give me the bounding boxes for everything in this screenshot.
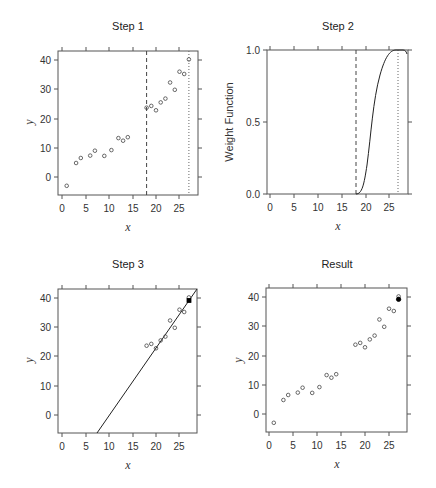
x-axis-title: x xyxy=(333,457,340,471)
x-axis-title: x xyxy=(334,219,341,233)
x-axis: 0 5 10 15 20 25 x xyxy=(267,46,395,233)
y-tick-label: 10 xyxy=(40,381,52,392)
plot-frame xyxy=(267,50,408,194)
weight-function-curve xyxy=(356,50,407,194)
x-axis: 0 5 10 15 20 25 x xyxy=(266,284,395,471)
x-tick-label: 0 xyxy=(59,203,65,214)
y-tick-label: 1.0 xyxy=(246,45,260,56)
y-axis: 0.0 0.5 1.0 Weight Function xyxy=(223,45,412,200)
panel-title: Step 2 xyxy=(322,20,354,32)
y-axis: 0 10 20 30 40 y xyxy=(22,55,202,183)
y-axis-title: Weight Function xyxy=(223,82,235,161)
y-tick-label: 20 xyxy=(40,351,52,362)
x-axis: 0 5 10 15 20 25 x xyxy=(59,47,185,234)
x-tick-label: 5 xyxy=(291,202,297,213)
y-tick-label: 40 xyxy=(248,292,260,303)
x-tick-label: 10 xyxy=(103,441,115,452)
x-tick-label: 20 xyxy=(359,440,371,451)
plot-frame xyxy=(266,288,407,432)
x-tick-label: 20 xyxy=(150,441,162,452)
x-tick-label: 15 xyxy=(336,202,348,213)
y-tick-label: 0.0 xyxy=(246,189,260,200)
y-tick-label: 40 xyxy=(40,55,52,66)
x-tick-label: 25 xyxy=(383,440,395,451)
x-tick-label: 25 xyxy=(383,202,395,213)
x-tick-label: 0 xyxy=(266,440,272,451)
panel-title: Step 1 xyxy=(112,20,144,32)
x-tick-label: 15 xyxy=(127,203,139,214)
x-tick-label: 10 xyxy=(103,203,115,214)
y-axis-title: y xyxy=(22,119,36,126)
x-tick-label: 5 xyxy=(290,440,296,451)
y-tick-label: 30 xyxy=(40,322,52,333)
y-tick-label: 0 xyxy=(45,410,51,421)
panel-step2: Step 2 0 5 10 15 20 25 x 0.0 0.5 1.0 Wei… xyxy=(223,20,412,233)
data-points xyxy=(145,296,191,351)
highlighted-point xyxy=(187,299,191,303)
panel-step3: Step 3 0 5 10 15 20 25 x 0 10 20 xyxy=(22,258,201,472)
x-tick-label: 15 xyxy=(335,440,347,451)
panel-step1: Step 1 0 5 10 15 20 25 x 0 10 2 xyxy=(22,20,202,234)
x-tick-label: 0 xyxy=(267,202,273,213)
x-axis-title: x xyxy=(124,458,131,472)
plot-frame xyxy=(58,51,198,195)
x-tick-label: 5 xyxy=(83,203,89,214)
x-tick-label: 10 xyxy=(312,202,324,213)
figure: Step 1 0 5 10 15 20 25 x 0 10 2 xyxy=(0,0,436,488)
y-tick-label: 0 xyxy=(45,172,51,183)
y-axis: 0 10 20 30 40 y xyxy=(22,293,201,421)
highlighted-point xyxy=(396,297,400,301)
x-tick-label: 25 xyxy=(173,441,185,452)
x-axis: 0 5 10 15 20 25 x xyxy=(59,285,185,472)
y-tick-label: 0 xyxy=(253,409,259,420)
x-tick-label: 20 xyxy=(150,203,162,214)
x-tick-label: 15 xyxy=(127,441,139,452)
x-tick-label: 25 xyxy=(173,203,185,214)
y-tick-label: 20 xyxy=(248,351,260,362)
x-tick-label: 5 xyxy=(83,441,89,452)
plot-frame xyxy=(58,289,197,433)
y-tick-label: 10 xyxy=(248,380,260,391)
y-tick-label: 40 xyxy=(40,293,52,304)
data-points xyxy=(65,58,191,188)
x-tick-label: 20 xyxy=(360,202,372,213)
y-tick-label: 20 xyxy=(40,114,52,125)
x-tick-label: 0 xyxy=(59,441,65,452)
panel-title: Result xyxy=(321,258,352,270)
y-axis-title: y xyxy=(22,357,36,364)
y-tick-label: 10 xyxy=(40,143,52,154)
y-tick-label: 30 xyxy=(248,321,260,332)
weighted-fit-line xyxy=(97,289,197,433)
y-axis: 0 10 20 30 40 y xyxy=(231,292,411,420)
y-axis-title: y xyxy=(231,357,245,364)
x-axis-title: x xyxy=(124,220,131,234)
y-tick-label: 30 xyxy=(40,84,52,95)
panel-result: Result 0 5 10 15 20 25 x 0 10 20 xyxy=(231,258,411,471)
x-tick-label: 10 xyxy=(311,440,323,451)
panel-title: Step 3 xyxy=(112,258,144,270)
data-points xyxy=(272,295,401,425)
y-tick-label: 0.5 xyxy=(246,117,260,128)
